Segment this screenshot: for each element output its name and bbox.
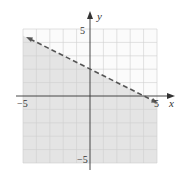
y-min-tick: −5: [77, 154, 88, 165]
x-max-tick: 5: [154, 98, 159, 109]
y-max-tick: 5: [80, 25, 85, 36]
x-axis-label: x: [168, 97, 174, 109]
y-axis-label: y: [96, 10, 102, 22]
x-min-tick: −5: [17, 98, 28, 109]
y-axis-arrow-icon: [87, 11, 93, 19]
inequality-graph: y x 5 −5 −5 5: [0, 0, 188, 183]
